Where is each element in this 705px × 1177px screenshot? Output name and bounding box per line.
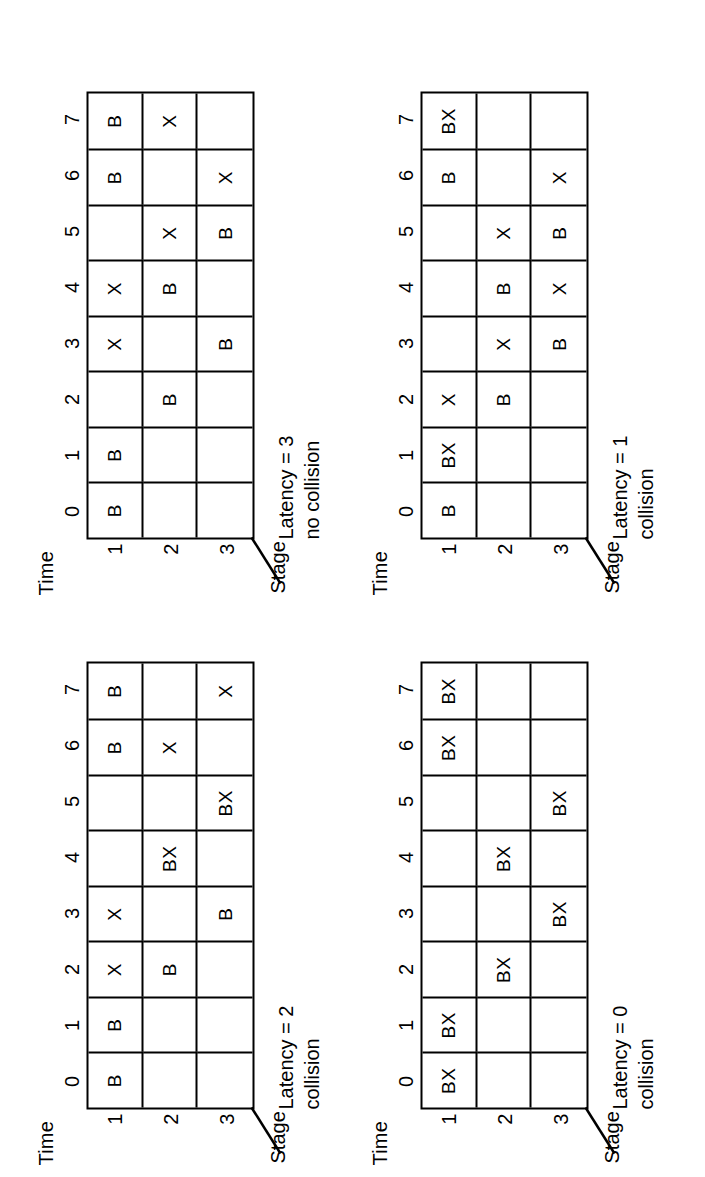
grid-cell (143, 885, 198, 941)
grid-cell: X (88, 315, 143, 371)
stage-tick: 2 (494, 543, 514, 573)
time-axis-label: Time (368, 550, 391, 595)
grid-cell (143, 1052, 198, 1108)
grid-cell (477, 774, 532, 830)
grid-cell (477, 885, 532, 941)
stage-tick: 1 (104, 543, 124, 573)
time-tick: 4 (394, 829, 416, 885)
stage-tick: 1 (438, 1113, 458, 1143)
grid-cell (197, 482, 252, 538)
panel-latency-0: Time 0 1 2 3 4 5 6 7 BX BX BX BX (368, 605, 668, 1165)
stage-tick: 1 (438, 543, 458, 573)
grid-cell: BX (197, 774, 252, 830)
stage-tick: 2 (160, 543, 180, 573)
grid-cell: B (477, 371, 532, 427)
time-tick: 0 (394, 1053, 416, 1109)
grid-cell: X (88, 941, 143, 997)
grid-cell (197, 426, 252, 482)
grid-cell: B (531, 315, 586, 371)
caption-latency: Latency = 1 (608, 435, 630, 539)
grid-cell: B (477, 260, 532, 316)
grid-cell: X (143, 204, 198, 260)
grid-cell (422, 885, 477, 941)
panel-latency-2: Time 0 1 2 3 4 5 6 7 B B X X B B (34, 605, 334, 1165)
grid-cell (531, 830, 586, 886)
time-tick: 1 (394, 427, 416, 483)
axis-corner-diagonal-icon (250, 535, 280, 583)
grid-cell (531, 371, 586, 427)
grid-cell (197, 719, 252, 775)
grid-cell: B (143, 371, 198, 427)
time-tick: 1 (60, 997, 82, 1053)
caption-collision: collision (632, 435, 658, 539)
time-tick: 5 (394, 203, 416, 259)
grid-cell: X (88, 885, 143, 941)
caption-collision: collision (298, 1005, 324, 1109)
grid-cell: X (143, 719, 198, 775)
panel-latency-3: Time 0 1 2 3 4 5 6 7 B B X X B B (34, 35, 334, 595)
grid-cell (531, 93, 586, 149)
stage-tick: 1 (104, 1113, 124, 1143)
grid-cell (88, 830, 143, 886)
grid-cell (88, 774, 143, 830)
caption-latency: Latency = 2 (274, 1005, 296, 1109)
reservation-grid: BX BX BX BX BX BX BX (420, 661, 588, 1109)
grid-cell (531, 482, 586, 538)
grid-cell (197, 941, 252, 997)
grid-cell: X (531, 260, 586, 316)
time-tick: 1 (394, 997, 416, 1053)
grid-cell: B (88, 996, 143, 1052)
grid-cell (422, 315, 477, 371)
grid-cell (143, 482, 198, 538)
time-tick: 3 (60, 885, 82, 941)
time-tick: 7 (394, 661, 416, 717)
grid-cell: BX (422, 426, 477, 482)
time-tick: 0 (60, 1053, 82, 1109)
time-axis-label: Time (34, 550, 57, 595)
time-tick: 5 (394, 773, 416, 829)
grid-cell: B (197, 885, 252, 941)
reservation-table-figure: Time 0 1 2 3 4 5 6 7 BX BX BX BX (0, 0, 705, 1177)
grid-cell: B (88, 482, 143, 538)
time-tick: 2 (394, 941, 416, 997)
reservation-grid: B B X X B B B B X X B (86, 91, 254, 539)
grid-cell (197, 1052, 252, 1108)
time-tick: 4 (60, 829, 82, 885)
grid-cell: BX (422, 93, 477, 149)
reservation-grid: B B X X B B B BX X B (86, 661, 254, 1109)
time-tick: 4 (60, 259, 82, 315)
time-axis-ticks: 0 1 2 3 4 5 6 7 (394, 661, 416, 1109)
grid-cell (197, 830, 252, 886)
panel-caption: Latency = 0 collision (606, 1005, 658, 1109)
stage-tick: 3 (550, 543, 570, 573)
grid-cell: BX (531, 885, 586, 941)
grid-cell: X (143, 93, 198, 149)
axis-corner-diagonal-icon (584, 535, 614, 583)
caption-collision: collision (632, 1005, 658, 1109)
grid-cell: BX (531, 774, 586, 830)
grid-cell (531, 996, 586, 1052)
grid-cell: BX (422, 719, 477, 775)
reservation-grid: B BX X B BX B X B X B X (420, 91, 588, 539)
grid-cell: X (531, 149, 586, 205)
grid-cell (197, 93, 252, 149)
grid-cell (197, 260, 252, 316)
grid-cell (531, 663, 586, 719)
grid-cell: B (143, 941, 198, 997)
grid-cell (477, 426, 532, 482)
grid-cell (477, 996, 532, 1052)
stage-tick: 3 (216, 1113, 236, 1143)
grid-cell: X (477, 315, 532, 371)
grid-cell: B (88, 719, 143, 775)
caption-latency: Latency = 3 (274, 435, 296, 539)
grid-cell (531, 426, 586, 482)
grid-cell (143, 315, 198, 371)
grid-cell (143, 996, 198, 1052)
axis-corner-diagonal-icon (584, 1105, 614, 1153)
grid-cell (477, 719, 532, 775)
stage-tick: 2 (494, 1113, 514, 1143)
grid-cell: B (197, 204, 252, 260)
time-tick: 7 (60, 661, 82, 717)
grid-cell: BX (422, 1052, 477, 1108)
panel-caption: Latency = 3 no collision (272, 435, 324, 539)
